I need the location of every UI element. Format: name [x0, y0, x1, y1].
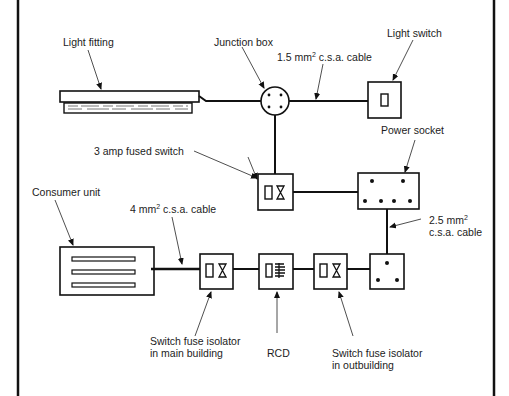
- label-consumer-unit: Consumer unit: [32, 186, 100, 198]
- label-line: in main building: [150, 347, 240, 359]
- label-junction-box: Junction box: [214, 36, 273, 48]
- label-light-switch: Light switch: [387, 27, 442, 39]
- label-light-fitting: Light fitting: [63, 36, 114, 48]
- label-sfi-outbuilding: Switch fuse isolator in outbuilding: [332, 347, 422, 371]
- cable-superscript: 2: [464, 214, 468, 221]
- cable-text: c.s.a. cable: [160, 203, 216, 215]
- label-line: in outbuilding: [332, 359, 422, 371]
- label-line: Switch fuse isolator: [332, 347, 422, 359]
- label-fused-switch: 3 amp fused switch: [94, 145, 184, 157]
- label-sfi-main: Switch fuse isolator in main building: [150, 335, 240, 359]
- junction-box-icon: [261, 87, 289, 115]
- sfi-main-icon: [200, 254, 233, 289]
- label-power-socket: Power socket: [381, 124, 444, 136]
- label-rcd: RCD: [267, 347, 290, 359]
- rcd-icon: [259, 254, 293, 289]
- cable-size: 4 mm: [130, 203, 156, 215]
- consumer-unit-icon: [60, 247, 154, 295]
- label-cable-4mm: 4 mm2 c.s.a. cable: [130, 203, 216, 215]
- cable-size: 1.5 mm: [277, 51, 312, 63]
- sfi-outbuilding-icon: [314, 254, 347, 289]
- diagram-canvas: [0, 0, 509, 396]
- fused-switch-icon: [258, 174, 293, 210]
- label-cable-1-5mm: 1.5 mm2 c.s.a. cable: [277, 51, 372, 63]
- cable-text: c.s.a. cable: [316, 51, 372, 63]
- light-fitting-icon: [60, 91, 199, 113]
- light-switch-icon: [368, 82, 401, 118]
- power-socket-icon: [358, 173, 419, 209]
- label-cable-2-5mm: 2.5 mm2 c.s.a. cable: [429, 214, 482, 238]
- cable-text: c.s.a. cable: [429, 226, 482, 238]
- label-line: Switch fuse isolator: [150, 335, 240, 347]
- cable-size: 2.5 mm: [429, 214, 464, 226]
- wiring-diagram: Light fitting Junction box Light switch …: [0, 0, 509, 396]
- outbuilding-socket-icon: [370, 254, 404, 289]
